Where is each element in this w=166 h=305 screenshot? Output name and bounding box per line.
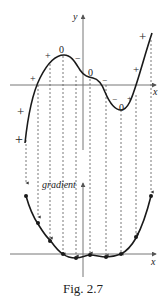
bottom-x-axis-label: x	[150, 256, 156, 267]
sign-labels: + + + 0 0 − 0 − − 0 + + + +	[15, 29, 146, 147]
sign-minus: −	[75, 53, 81, 64]
figure-caption: Fig. 2.7	[0, 281, 166, 297]
sign-minus: −	[112, 94, 117, 104]
sign-plus: +	[15, 132, 23, 147]
gradient-curve	[26, 196, 151, 258]
gradient-axis-label: gradient	[42, 179, 76, 190]
sign-plus: +	[133, 63, 139, 75]
gradient-points	[24, 194, 153, 260]
sign-plus: +	[139, 29, 146, 44]
sign-plus: +	[30, 73, 36, 84]
sign-zero: 0	[119, 102, 124, 113]
sign-plus: +	[127, 93, 132, 103]
diagram-canvas: + + + 0 0 − 0 − − 0 + + + + y x gradient…	[0, 0, 166, 305]
bottom-axes	[10, 183, 156, 277]
sign-plus: +	[17, 104, 24, 119]
sign-plus: +	[45, 50, 51, 61]
sign-zero: 0	[59, 44, 64, 55]
sign-zero: 0	[88, 67, 93, 78]
sign-minus: −	[102, 75, 107, 85]
top-y-axis-label: y	[72, 11, 78, 22]
top-x-axis-label: x	[152, 86, 158, 97]
